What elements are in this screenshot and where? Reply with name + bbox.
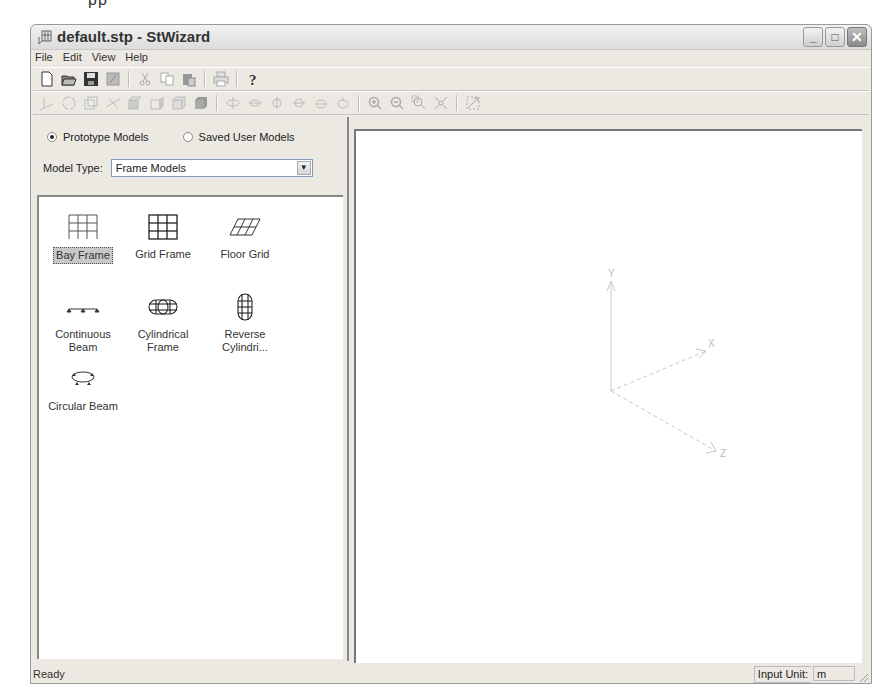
toolbar-separator (358, 95, 360, 111)
saved-user-models-radio[interactable]: Saved User Models (183, 131, 295, 143)
rotate-right-button[interactable] (289, 94, 309, 112)
side-face-icon (149, 95, 165, 111)
model-continuous-beam[interactable]: ContinuousBeam (43, 293, 123, 355)
status-bar: Ready Input Unit: m (33, 665, 869, 683)
model-reverse-cylindrical[interactable]: ReverseCylindri... (205, 293, 285, 355)
toolbar-separator (236, 71, 238, 87)
prototype-models-radio[interactable]: Prototype Models (47, 131, 149, 143)
close-button[interactable]: ✕ (847, 27, 867, 47)
box-button[interactable] (169, 94, 189, 112)
model-bay-frame[interactable]: Bay Frame (43, 213, 123, 264)
toolbar-separator (204, 71, 206, 87)
model-type-value: Frame Models (116, 162, 186, 174)
radio-checked-icon (47, 132, 57, 142)
rotate-down-icon (247, 95, 263, 111)
app-icon (37, 29, 53, 45)
circular-beam-icon (66, 365, 100, 393)
zoom-in-icon (367, 95, 383, 111)
cylindrical-frame-icon (146, 293, 180, 321)
cut-button[interactable] (135, 70, 155, 88)
model-source-group: Prototype Models Saved User Models (47, 131, 295, 143)
menu-help[interactable]: Help (125, 51, 148, 65)
zoom-out-icon (389, 95, 405, 111)
maximize-icon: □ (826, 28, 844, 46)
input-unit-value: m (813, 666, 855, 681)
help-button[interactable]: ? (243, 70, 263, 88)
rotate-button[interactable] (59, 94, 79, 112)
pan-icon (465, 95, 481, 111)
y-axis-label: Y (608, 268, 615, 279)
toolbar-separator (128, 71, 130, 87)
pan-button[interactable] (463, 94, 483, 112)
model-panel: Prototype Models Saved User Models Model… (33, 117, 349, 661)
axis-button[interactable] (37, 94, 57, 112)
cropped-page-text: pp (88, 0, 108, 9)
model-label: CylindricalFrame (136, 327, 191, 355)
3d-viewport[interactable]: Y X Z (354, 129, 862, 663)
saved-user-models-label: Saved User Models (199, 131, 295, 143)
maximize-button[interactable]: □ (825, 27, 845, 47)
new-icon (39, 71, 55, 87)
toolbar-separator (216, 95, 218, 111)
prototype-models-label: Prototype Models (63, 131, 149, 143)
save-icon (83, 71, 99, 87)
copy-button[interactable] (157, 70, 177, 88)
menu-edit[interactable]: Edit (63, 51, 82, 65)
rotate-right-icon (291, 95, 307, 111)
paste-button[interactable] (179, 70, 199, 88)
grid-frame-icon (146, 213, 180, 241)
input-unit-label: Input Unit: (754, 666, 811, 683)
zoom-out-button[interactable] (387, 94, 407, 112)
app-window: default.stp - StWizard _ □ ✕ File Edit V… (30, 24, 872, 684)
main-toolbar: ? (33, 67, 869, 91)
window-title: default.stp - StWizard (57, 28, 210, 45)
wireframe-button[interactable] (81, 94, 101, 112)
rotate-icon (61, 95, 77, 111)
menu-bar: File Edit View Help (33, 51, 148, 65)
box-icon (171, 95, 187, 111)
zoom-fit-icon (433, 95, 449, 111)
continuous-beam-icon (66, 293, 100, 321)
model-label: Floor Grid (219, 247, 272, 262)
model-grid-frame[interactable]: Grid Frame (123, 213, 203, 262)
rotate-down-button[interactable] (245, 94, 265, 112)
rotate-left-icon (269, 95, 285, 111)
open-button[interactable] (59, 70, 79, 88)
rotate-up-button[interactable] (223, 94, 243, 112)
save-as-button[interactable] (103, 70, 123, 88)
node-icon (105, 95, 121, 111)
node-button[interactable] (103, 94, 123, 112)
new-button[interactable] (37, 70, 57, 88)
cut-icon (137, 71, 153, 87)
model-type-select[interactable]: Frame Models ▼ (111, 159, 313, 177)
copy-icon (159, 71, 175, 87)
rotate-ccw-button[interactable] (333, 94, 353, 112)
chevron-down-icon[interactable]: ▼ (297, 161, 311, 175)
zoom-window-button[interactable] (409, 94, 429, 112)
solid-button[interactable] (191, 94, 211, 112)
print-button[interactable] (211, 70, 231, 88)
zoom-fit-button[interactable] (431, 94, 451, 112)
model-circular-beam[interactable]: Circular Beam (43, 365, 123, 414)
side-face-button[interactable] (147, 94, 167, 112)
zoom-in-button[interactable] (365, 94, 385, 112)
model-label: Grid Frame (133, 247, 193, 262)
model-cylindrical-frame[interactable]: CylindricalFrame (123, 293, 203, 355)
title-bar[interactable]: default.stp - StWizard _ □ ✕ (31, 25, 871, 50)
front-face-button[interactable] (125, 94, 145, 112)
reverse-cylindrical-icon (228, 293, 262, 321)
menu-file[interactable]: File (35, 51, 53, 65)
minimize-button[interactable]: _ (803, 27, 823, 47)
menu-view[interactable]: View (92, 51, 116, 65)
wireframe-icon (83, 95, 99, 111)
rotate-cw-button[interactable] (311, 94, 331, 112)
resize-grip-icon[interactable] (857, 671, 869, 683)
z-axis-label: Z (720, 448, 726, 459)
model-label: Circular Beam (46, 399, 120, 414)
save-button[interactable] (81, 70, 101, 88)
bay-frame-icon (66, 213, 100, 241)
minimize-icon: _ (804, 28, 822, 46)
rotate-left-button[interactable] (267, 94, 287, 112)
model-floor-grid[interactable]: Floor Grid (205, 213, 285, 262)
rotate-up-icon (225, 95, 241, 111)
